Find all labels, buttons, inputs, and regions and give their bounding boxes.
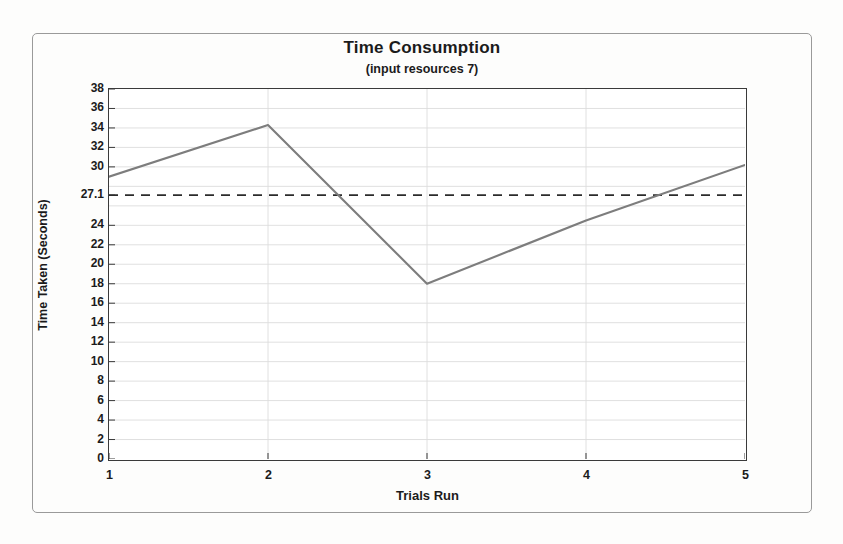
y-tick-label: 30 bbox=[44, 160, 104, 172]
chart-subtitle: (input resources 7) bbox=[32, 62, 812, 76]
y-tick-label: 4 bbox=[44, 413, 104, 425]
y-tick-label: 22 bbox=[44, 238, 104, 250]
y-tick-label: 24 bbox=[44, 218, 104, 230]
chart-title: Time Consumption bbox=[32, 38, 812, 58]
x-tick-label: 1 bbox=[90, 468, 130, 482]
y-tick-label: 20 bbox=[44, 257, 104, 269]
y-tick-label: 38 bbox=[44, 82, 104, 94]
y-tick-label: 27.1 bbox=[44, 188, 104, 200]
x-tick-label: 4 bbox=[567, 468, 607, 482]
x-axis-tick-labels: 12345 bbox=[108, 468, 747, 488]
y-tick-label: 12 bbox=[44, 335, 104, 347]
y-tick-label: 16 bbox=[44, 296, 104, 308]
y-tick-label: 36 bbox=[44, 101, 104, 113]
vertical-gridlines bbox=[268, 89, 586, 459]
y-tick-label: 14 bbox=[44, 316, 104, 328]
y-tick-label: 2 bbox=[44, 433, 104, 445]
y-tick-label: 34 bbox=[44, 121, 104, 133]
y-tick-label: 0 bbox=[44, 452, 104, 464]
y-tick-label: 32 bbox=[44, 140, 104, 152]
y-tick-label: 18 bbox=[44, 277, 104, 289]
plot-area bbox=[108, 88, 747, 461]
chart-plot-svg bbox=[109, 89, 745, 459]
x-tick-label: 2 bbox=[249, 468, 289, 482]
y-axis-tick-labels: 02468101214161820222427.13032343638 bbox=[40, 88, 104, 461]
y-tick-label: 10 bbox=[44, 355, 104, 367]
y-tick-label: 6 bbox=[44, 394, 104, 406]
x-tick-label: 3 bbox=[408, 468, 448, 482]
y-tick-label: 8 bbox=[44, 374, 104, 386]
scan-surface: Time Consumption (input resources 7) Tim… bbox=[0, 0, 843, 544]
x-axis-title: Trials Run bbox=[108, 488, 747, 503]
x-tick-label: 5 bbox=[726, 468, 766, 482]
